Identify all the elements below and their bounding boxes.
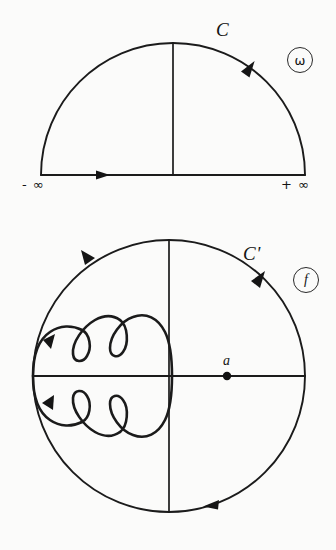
omega-plane-badge: ω xyxy=(287,47,313,73)
point-a-marker-icon xyxy=(223,372,231,380)
left-endpoint-label: - ∞ xyxy=(22,178,45,191)
upper-panel-group xyxy=(41,43,305,179)
circle-arrow-bottom-icon xyxy=(203,500,219,510)
f-plane-badge: f xyxy=(293,267,319,293)
upper-contour-label: C xyxy=(216,20,229,39)
inner-loop-arrow-lower-icon xyxy=(42,395,54,410)
contour-drawing xyxy=(0,0,336,550)
lower-contour-label: C' xyxy=(243,244,261,263)
right-endpoint-label: + ∞ xyxy=(281,178,310,191)
figure-canvas: C ω - ∞ + ∞ C' f a xyxy=(0,0,336,550)
lower-panel-group xyxy=(33,240,305,512)
point-a-label: a xyxy=(223,354,230,368)
baseline-arrow-icon xyxy=(96,171,110,180)
inner-loop-lower-cusp-2 xyxy=(110,376,172,437)
inner-loop-upper-cusp-2 xyxy=(110,315,172,376)
